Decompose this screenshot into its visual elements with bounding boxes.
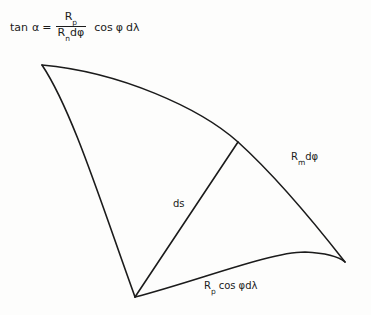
label-arc-element-ds: ds	[173, 199, 185, 209]
label-meridian-arc: Rmdφ	[291, 152, 318, 165]
tangent-alpha-equation: tan α = Rp Rndφ cos φ dλ	[10, 12, 139, 43]
equation-equals: =	[42, 22, 51, 33]
fraction-numerator: Rp	[63, 11, 79, 26]
equation-cos: cos	[94, 22, 113, 33]
label-rp-subscript: p	[211, 287, 216, 296]
label-rm-differential: dφ	[305, 151, 318, 162]
ds-diagonal-line	[135, 142, 238, 297]
label-rm-subscript: m	[298, 158, 305, 167]
equation-lhs: tan	[10, 22, 28, 33]
denominator-subscript-n: n	[65, 34, 70, 43]
denominator-differential-dphi: dφ	[70, 26, 84, 39]
fraction-denominator: Rndφ	[56, 27, 87, 42]
label-rp-angle-differential: φdλ	[239, 280, 258, 291]
left-curve-meridian	[42, 65, 135, 297]
label-rm-symbol: R	[291, 151, 298, 162]
equation-differential-dlambda: dλ	[126, 22, 140, 33]
equation-variable-alpha: α	[32, 22, 39, 33]
numerator-subscript-p: p	[72, 18, 77, 27]
label-rp-symbol: R	[204, 280, 211, 291]
label-parallel-arc: Rpcosφdλ	[204, 281, 257, 294]
equation-angle-phi: φ	[116, 22, 123, 33]
fraction-rp-over-rn-dphi: Rp Rndφ	[56, 11, 87, 42]
label-rp-cos: cos	[219, 280, 236, 291]
